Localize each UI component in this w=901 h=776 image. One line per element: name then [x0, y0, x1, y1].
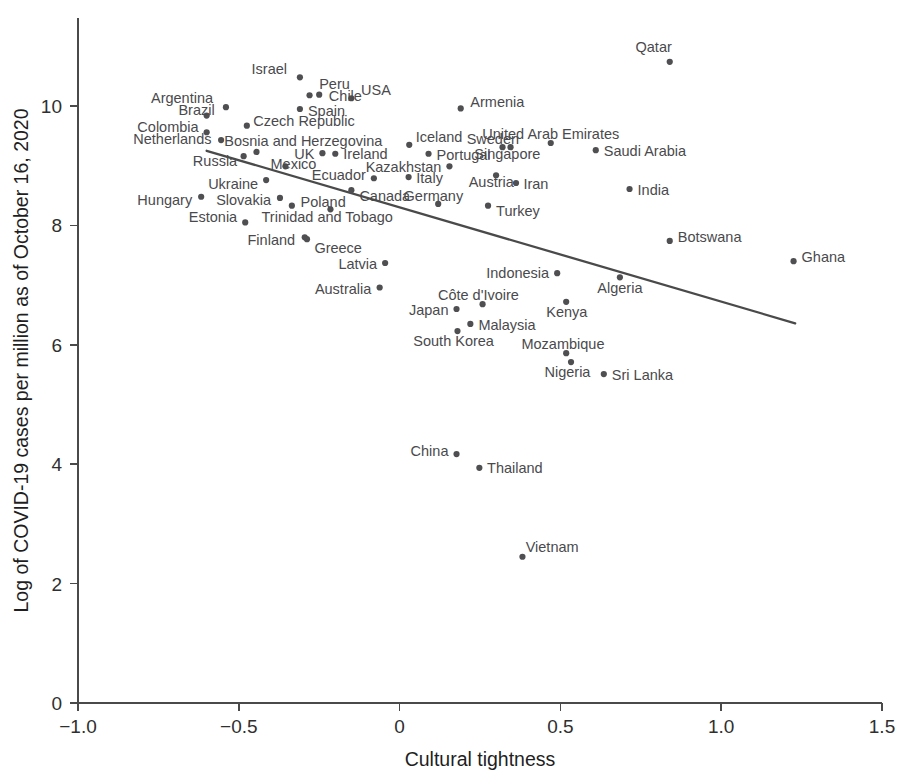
point-label: Russia [193, 153, 238, 169]
point-label: Japan [409, 302, 449, 318]
point-label: Mozambique [521, 336, 604, 352]
data-point: UK [319, 150, 325, 156]
point-label: Italy [416, 170, 443, 186]
point-label: Ecuador [312, 167, 366, 183]
x-tick-label: −1.0 [59, 716, 97, 737]
y-tick-label: 8 [51, 215, 62, 236]
data-point: Spain [297, 106, 303, 112]
plot-canvas: −1.0−0.500.51.01.50246810 QatarIsraelPer… [0, 0, 901, 776]
y-tick-label: 6 [51, 335, 62, 356]
data-point: Canada [348, 187, 354, 193]
data-point: Turkey [485, 203, 491, 209]
point-label: Turkey [496, 203, 541, 219]
point-label: Kenya [546, 304, 588, 320]
x-tick-label: 0 [394, 716, 405, 737]
point-label: Ghana [802, 249, 846, 265]
x-tick-label: −0.5 [220, 716, 258, 737]
x-axis-title: Cultural tightness [405, 748, 556, 770]
point-label: Netherlands [133, 131, 211, 147]
data-point: Iceland [406, 142, 412, 148]
data-point: Peru [306, 92, 312, 98]
point-label: USA [361, 82, 391, 98]
point-label: Poland [301, 194, 346, 210]
data-point: Czech Republic [244, 123, 250, 129]
y-tick-label: 4 [51, 454, 62, 475]
data-point: India [626, 186, 632, 192]
data-point: Botswana [667, 238, 673, 244]
y-tick-label: 10 [41, 96, 62, 117]
point-label: Vietnam [526, 539, 579, 555]
data-point: Netherlands [218, 137, 224, 143]
axis-titles: Cultural tightnessLog of COVID-19 cases … [10, 108, 556, 770]
point-label: Saudi Arabia [604, 143, 687, 159]
point-label: Chile [329, 88, 362, 104]
point-label: Côte d'Ivoire [438, 287, 519, 303]
point-label: Sweden [467, 131, 519, 147]
data-point: Bosnia and Herzegovina [253, 149, 259, 155]
point-labels: QatarIsraelPeruChileUSAArgentinaArmeniaB… [133, 39, 846, 554]
data-point: Slovakia [277, 195, 283, 201]
data-point: Portugal [425, 151, 431, 157]
data-point: Australia [377, 284, 383, 290]
data-point: Russia [241, 153, 247, 159]
point-label: Brazil [178, 102, 214, 118]
point-label: Qatar [636, 39, 672, 55]
data-point: Poland [289, 203, 295, 209]
point-label: South Korea [413, 333, 495, 349]
point-label: Germany [404, 188, 464, 204]
data-point: China [453, 451, 459, 457]
data-point: Indonesia [554, 270, 560, 276]
point-label: Australia [315, 281, 372, 297]
data-point: Ukraine [263, 177, 269, 183]
data-point: Armenia [458, 105, 464, 111]
point-label: Armenia [470, 94, 525, 110]
point-label: Slovakia [216, 192, 272, 208]
point-label: Malaysia [478, 317, 536, 333]
data-point: Ghana [790, 258, 796, 264]
data-point: Sri Lanka [601, 371, 607, 377]
data-point: Latvia [382, 260, 388, 266]
data-point: Malaysia [467, 321, 473, 327]
point-label: Portugal [437, 147, 491, 163]
data-point: Japan [453, 306, 459, 312]
point-label: India [638, 182, 670, 198]
x-tick-label: 0.5 [547, 716, 573, 737]
point-label: Algeria [597, 280, 643, 296]
point-label: Trinidad and Tobago [262, 209, 393, 225]
data-point: Saudi Arabia [593, 147, 599, 153]
point-label: Ukraine [208, 176, 258, 192]
point-label: Indonesia [486, 265, 550, 281]
y-tick-label: 0 [51, 693, 62, 714]
data-point: Argentina [223, 104, 229, 110]
point-label: Sri Lanka [612, 367, 674, 383]
data-point: Greece [304, 236, 310, 242]
data-point: Iran [513, 180, 519, 186]
data-point: Israel [297, 74, 303, 80]
data-point: Ecuador [371, 175, 377, 181]
data-point: Qatar [667, 59, 673, 65]
y-tick-label: 2 [51, 574, 62, 595]
point-label: Thailand [487, 460, 543, 476]
x-tick-label: 1.5 [869, 716, 895, 737]
point-label: Latvia [338, 256, 378, 272]
point-label: Iran [523, 176, 548, 192]
x-tick-label: 1.0 [708, 716, 734, 737]
point-label: Nigeria [545, 364, 592, 380]
point-label: Iceland [416, 129, 463, 145]
point-label: Israel [252, 61, 287, 77]
data-point: Chile [316, 92, 322, 98]
point-label: Austria [469, 174, 515, 190]
point-label: Hungary [137, 192, 193, 208]
data-point: Thailand [476, 465, 482, 471]
point-label: Greece [314, 240, 362, 256]
point-label: Czech Republic [253, 113, 355, 129]
point-label: Botswana [678, 229, 743, 245]
data-point: Estonia [242, 219, 248, 225]
data-point: Vietnam [519, 554, 525, 560]
point-label: Estonia [189, 209, 238, 225]
y-axis-title: Log of COVID-19 cases per million as of … [10, 108, 32, 612]
point-label: China [411, 443, 450, 459]
scatter-plot-figure: −1.0−0.500.51.01.50246810 QatarIsraelPer… [0, 0, 901, 776]
point-label: Finland [248, 232, 296, 248]
data-point: Ireland [332, 151, 338, 157]
